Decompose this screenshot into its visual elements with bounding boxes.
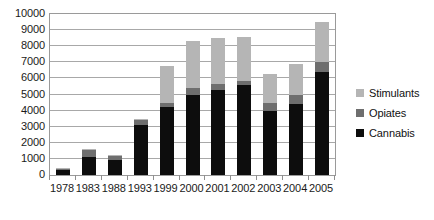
bar-segment-cannabis[interactable] (211, 90, 225, 175)
x-axis-tick (256, 175, 257, 180)
x-axis-tick (230, 175, 231, 180)
x-axis-tick (75, 175, 76, 180)
bar-segment-stimulants[interactable] (315, 22, 329, 62)
x-axis-tick-label: 1978 (50, 182, 74, 195)
bar-group[interactable] (289, 64, 303, 175)
y-axis-tick-label: 6000 (21, 72, 45, 83)
y-axis-tick-label: 3000 (21, 120, 45, 131)
bar-group[interactable] (237, 37, 251, 175)
bar-segment-cannabis[interactable] (134, 125, 148, 175)
y-axis-tick-label: 5000 (21, 88, 45, 99)
x-axis-tick-label: 2001 (205, 182, 229, 195)
bar-segment-stimulants[interactable] (160, 66, 174, 103)
bar-segment-stimulants[interactable] (186, 41, 200, 88)
x-axis-tick (282, 175, 283, 180)
x-axis-tick-label: 1993 (128, 182, 152, 195)
bar-segment-opiates[interactable] (186, 88, 200, 95)
bar-segment-opiates[interactable] (134, 120, 148, 125)
y-axis-tick-label: 1000 (21, 152, 45, 163)
x-axis-tick-label: 2003 (257, 182, 281, 195)
legend-item[interactable]: Stimulants (356, 84, 434, 102)
x-axis-tick (101, 175, 102, 180)
x-axis-tick-label: 2002 (231, 182, 255, 195)
bar-group[interactable] (160, 66, 174, 175)
bar-group[interactable] (263, 74, 277, 175)
bar-segment-opiates[interactable] (289, 95, 303, 104)
x-axis-tick-label: 2000 (179, 182, 203, 195)
x-axis-tick (204, 175, 205, 180)
bar-segment-cannabis[interactable] (160, 107, 174, 175)
plot-area (49, 13, 336, 176)
bar-segment-opiates[interactable] (108, 155, 122, 160)
legend-item[interactable]: Cannabis (356, 124, 434, 142)
x-axis-tick (127, 175, 128, 180)
bar-segment-opiates[interactable] (237, 81, 251, 85)
bar-segment-cannabis[interactable] (186, 95, 200, 175)
bar-segment-stimulants[interactable] (82, 149, 96, 150)
bar-group[interactable] (82, 149, 96, 175)
y-axis-tick-label: 4000 (21, 104, 45, 115)
bar-group[interactable] (56, 168, 70, 175)
x-axis-ticks (49, 175, 336, 181)
bar-segment-stimulants[interactable] (263, 74, 277, 103)
y-axis-tick-label: 7000 (21, 56, 45, 67)
bar-segment-opiates[interactable] (315, 62, 329, 72)
y-axis-tick-labels: 0100020003000400050006000700080009000100… (0, 0, 48, 220)
y-axis-tick-label: 2000 (21, 136, 45, 147)
y-axis-tick-label: 0 (39, 169, 45, 180)
bar-group[interactable] (315, 22, 329, 175)
bar-segment-cannabis[interactable] (263, 111, 277, 175)
bar-segment-cannabis[interactable] (315, 72, 329, 175)
x-axis-tick (153, 175, 154, 180)
chart-legend: StimulantsOpiatesCannabis (356, 84, 434, 144)
x-axis-tick-labels: 1978198319881993199920002001200220032004… (49, 182, 336, 198)
legend-label: Opiates (369, 107, 406, 119)
bar-segment-stimulants[interactable] (211, 38, 225, 84)
caption-sliver (0, 210, 434, 220)
y-axis-tick-label: 8000 (21, 40, 45, 51)
y-axis-tick-label: 10000 (15, 8, 45, 19)
x-axis-tick (308, 175, 309, 180)
bar-segment-cannabis[interactable] (108, 160, 122, 175)
bar-segment-stimulants[interactable] (289, 64, 303, 95)
bar-group[interactable] (211, 38, 225, 175)
legend-item[interactable]: Opiates (356, 104, 434, 122)
x-axis-tick (334, 175, 335, 180)
bar-segment-opiates[interactable] (263, 103, 277, 112)
bar-segment-cannabis[interactable] (237, 85, 251, 175)
bar-segment-opiates[interactable] (56, 169, 70, 170)
legend-label: Cannabis (369, 127, 415, 139)
x-axis-tick-label: 1983 (76, 182, 100, 195)
bar-group[interactable] (108, 155, 122, 175)
legend-swatch-icon (356, 129, 364, 137)
x-axis-tick-label: 2004 (283, 182, 307, 195)
bar-segment-opiates[interactable] (82, 150, 96, 158)
bar-group[interactable] (134, 119, 148, 175)
stacked-bar-chart: 0100020003000400050006000700080009000100… (0, 0, 434, 220)
bar-segment-cannabis[interactable] (289, 104, 303, 175)
bar-segment-stimulants[interactable] (237, 37, 251, 80)
x-axis-tick-label: 1988 (102, 182, 126, 195)
bar-segment-cannabis[interactable] (82, 157, 96, 175)
bars-layer (50, 14, 335, 175)
y-axis-tick-label: 9000 (21, 24, 45, 35)
legend-swatch-icon (356, 89, 364, 97)
x-axis-tick-label: 1999 (154, 182, 178, 195)
legend-swatch-icon (356, 109, 364, 117)
x-axis-tick (179, 175, 180, 180)
bar-group[interactable] (186, 41, 200, 175)
bar-segment-opiates[interactable] (211, 84, 225, 90)
legend-label: Stimulants (369, 87, 419, 99)
x-axis-tick (49, 175, 50, 180)
bar-segment-opiates[interactable] (160, 103, 174, 108)
x-axis-tick-label: 2005 (309, 182, 333, 195)
